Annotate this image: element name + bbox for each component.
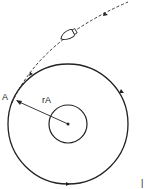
orbit-direction-arrow-bottom: [66, 182, 70, 186]
radius-label: rA: [42, 95, 51, 105]
orbit-diagram: A rA |: [0, 0, 147, 189]
radius-arrowhead: [16, 100, 22, 105]
approach-trajectory: [12, 2, 128, 103]
margin-mark: |: [141, 178, 143, 188]
point-a-label: A: [2, 92, 8, 102]
orbit-direction-arrow-right: [119, 89, 124, 93]
